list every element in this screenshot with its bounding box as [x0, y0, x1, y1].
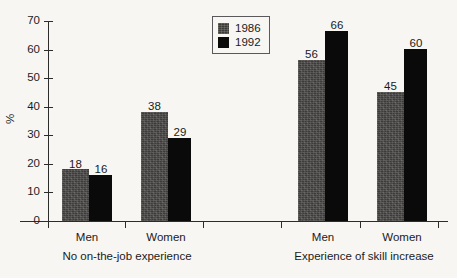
y-tick-50 [44, 78, 53, 79]
group-label-no-experience: No on-the-job experience [38, 250, 216, 263]
y-tick-60 [44, 50, 53, 51]
bar-no-experience-women-1986[interactable] [141, 112, 168, 221]
y-tick-label-60: 60 [14, 44, 40, 55]
y-tick-70 [44, 21, 53, 22]
x-axis-line [20, 221, 448, 222]
bar-no-experience-women-1992[interactable] [168, 138, 191, 221]
group-label-skill-increase: Experience of skill increase [274, 250, 454, 263]
y-axis-title: % [4, 114, 16, 124]
legend-label-1986: 1986 [235, 22, 261, 34]
y-tick-20 [44, 164, 53, 165]
bar-value-skill-increase-women-1992: 60 [401, 37, 431, 49]
y-tick-label-20: 20 [14, 158, 40, 169]
y-tick-label-0: 0 [14, 215, 40, 226]
bar-value-no-experience-men-1992: 16 [86, 163, 116, 175]
y-tick-30 [44, 135, 53, 136]
bar-value-skill-increase-men-1986: 56 [295, 48, 328, 60]
x-tick-left-end [203, 222, 204, 228]
chart-page: 70 60 50 40 30 20 10 0 % 18 16 38 29 56 … [0, 0, 457, 278]
x-tick-right-end [438, 222, 439, 228]
bar-value-skill-increase-women-1986: 45 [374, 80, 407, 92]
bar-value-skill-increase-men-1992: 66 [322, 19, 352, 31]
bar-skill-increase-women-1992[interactable] [404, 49, 427, 221]
bar-skill-increase-women-1986[interactable] [377, 92, 404, 221]
y-tick-label-40: 40 [14, 101, 40, 112]
y-tick-label-50: 50 [14, 72, 40, 83]
x-tick-right-mid [360, 222, 361, 228]
category-label-no-experience-women: Women [138, 231, 194, 244]
category-label-skill-increase-men: Men [298, 231, 348, 244]
legend-swatch-1986-icon [218, 23, 229, 34]
x-tick-left-start [48, 222, 49, 228]
legend-entry-1992[interactable]: 1992 [218, 35, 261, 49]
x-tick-left-mid [125, 222, 126, 228]
bar-value-no-experience-women-1992: 29 [165, 126, 195, 138]
bar-skill-increase-men-1986[interactable] [298, 60, 325, 221]
y-tick-label-30: 30 [14, 129, 40, 140]
bar-value-no-experience-women-1986: 38 [138, 100, 171, 112]
y-tick-10 [44, 192, 53, 193]
bar-no-experience-men-1986[interactable] [62, 169, 89, 221]
legend-swatch-1992-icon [218, 37, 229, 48]
bar-no-experience-men-1992[interactable] [89, 175, 112, 221]
y-tick-40 [44, 107, 53, 108]
x-tick-right-start [281, 222, 282, 228]
y-tick-label-10: 10 [14, 186, 40, 197]
legend-label-1992: 1992 [235, 36, 261, 48]
bar-skill-increase-men-1992[interactable] [325, 31, 348, 221]
y-tick-label-70: 70 [14, 15, 40, 26]
category-label-skill-increase-women: Women [374, 231, 430, 244]
legend-entry-1986[interactable]: 1986 [218, 21, 261, 35]
bar-chart-plot-area: 70 60 50 40 30 20 10 0 % 18 16 38 29 56 … [0, 0, 457, 278]
chart-legend: 1986 1992 [212, 16, 270, 54]
category-label-no-experience-men: Men [62, 231, 112, 244]
